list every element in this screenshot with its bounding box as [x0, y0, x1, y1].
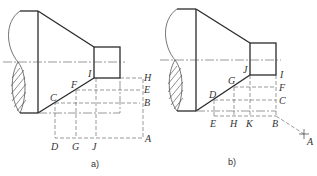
cylinder-a — [94, 47, 120, 78]
label-I: I — [87, 68, 92, 79]
label-G: G — [228, 75, 235, 86]
cone-top-edge-b — [196, 9, 250, 43]
caption-a: a) — [91, 159, 99, 169]
label-A: A — [144, 133, 152, 144]
cone-bottom-edge-a — [38, 78, 94, 113]
label-C: C — [279, 95, 286, 106]
label-F: F — [278, 82, 286, 93]
point-labels-b: J G D I F C E H K B A — [208, 64, 314, 147]
label-F: F — [70, 79, 78, 90]
label-K: K — [245, 118, 254, 129]
label-H: H — [143, 72, 152, 83]
label-A: A — [306, 136, 314, 147]
cone-top-edge-a — [38, 11, 94, 47]
label-E: E — [209, 118, 216, 129]
label-G: G — [72, 141, 79, 152]
label-B: B — [144, 97, 150, 108]
panel-b: J G D I F C E H K B A b) — [160, 9, 314, 167]
cylinder-b — [250, 43, 276, 75]
cone-bottom-edge-b — [196, 75, 250, 111]
projection-lines-b — [196, 75, 309, 139]
diagram-canvas: I F C H E B A D G J a) — [0, 0, 317, 176]
label-H: H — [229, 118, 238, 129]
label-D: D — [50, 141, 59, 152]
label-I: I — [279, 69, 284, 80]
label-C: C — [50, 92, 57, 103]
label-D: D — [208, 89, 217, 100]
hatch-section-a — [11, 62, 26, 113]
hatch-section-b — [168, 60, 183, 111]
label-J: J — [243, 64, 248, 75]
label-J: J — [92, 141, 97, 152]
label-B: B — [272, 118, 278, 129]
panel-a: I F C H E B A D G J a) — [3, 11, 152, 169]
caption-b: b) — [228, 157, 236, 167]
projection-lines-a — [38, 78, 143, 138]
label-E: E — [143, 84, 150, 95]
point-labels-a: I F C H E B A D G J — [50, 68, 152, 152]
